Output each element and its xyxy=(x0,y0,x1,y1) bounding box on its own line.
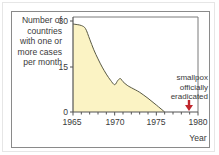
eradication-annotation: smallpox officially eradicated xyxy=(158,73,208,102)
x-tick-label-1980: 1980 xyxy=(188,117,207,127)
x-tick-label-1970: 1970 xyxy=(105,117,124,127)
x-tick-label-1965: 1965 xyxy=(62,117,81,127)
y-tick-label-15: 15 xyxy=(58,62,68,72)
area-fill xyxy=(73,24,165,112)
annotation-line: eradicated xyxy=(158,92,208,102)
y-tick-label-0: 0 xyxy=(63,107,68,117)
annotation-line: smallpox xyxy=(158,73,208,83)
y-tick-label-30: 30 xyxy=(58,16,68,26)
annotation-line: officially xyxy=(158,83,208,93)
x-axis-label: Year xyxy=(189,133,207,143)
eradication-arrow-icon xyxy=(185,100,193,111)
x-tick-label-1975: 1975 xyxy=(146,117,165,127)
